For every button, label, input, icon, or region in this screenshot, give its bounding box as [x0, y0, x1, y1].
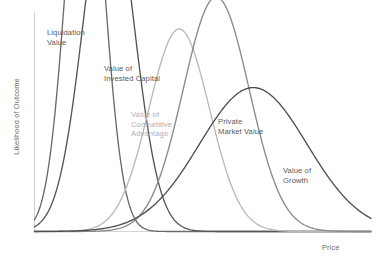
curve-label-line: Advantage — [131, 129, 172, 139]
curve-private-market-value — [35, 0, 372, 231]
x-axis-title: Price — [322, 243, 340, 252]
curve-label-line: Competitive — [131, 120, 172, 130]
curve-value-of-competitive-advantage — [35, 29, 372, 232]
curve-label-value-of-growth: Value ofGrowth — [283, 166, 311, 185]
curve-liquidation-value — [35, 0, 372, 232]
curve-label-line: Value of — [104, 64, 160, 74]
curve-value-of-invested-capital — [35, 0, 372, 232]
curve-label-line: Growth — [283, 176, 311, 186]
curve-label-line: Value of — [283, 166, 311, 176]
curve-label-line: Value of — [131, 110, 172, 120]
curve-label-private-market-value: PrivateMarket Value — [218, 117, 263, 136]
curve-label-value-of-competitive-advantage: Value ofCompetitiveAdvantage — [131, 110, 172, 139]
curve-label-value-of-invested-capital: Value ofInvested Capital — [104, 64, 160, 83]
curve-value-of-growth — [35, 88, 372, 232]
curve-label-line: Value — [47, 38, 85, 48]
curve-label-line: Market Value — [218, 127, 263, 137]
curve-label-line: Private — [218, 117, 263, 127]
chart-figure: Likelihood of Outcome Price LiquidationV… — [0, 0, 377, 265]
y-axis-title: Likelihood of Outcome — [12, 67, 21, 167]
curve-label-line: Invested Capital — [104, 74, 160, 84]
curve-label-liquidation-value: LiquidationValue — [47, 28, 85, 47]
curve-label-line: Liquidation — [47, 28, 85, 38]
